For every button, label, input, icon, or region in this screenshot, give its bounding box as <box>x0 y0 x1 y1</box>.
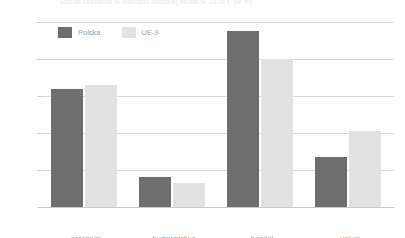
y-tick-mark-0 <box>37 207 42 208</box>
bar-polska-3 <box>315 157 347 207</box>
bar-ue-9-0 <box>85 85 117 207</box>
bar-chart-figure: Udział sektorów w wartości dodanej brutt… <box>0 0 405 238</box>
y-tick-mark-30 <box>37 96 42 97</box>
bar-polska-0 <box>51 89 83 207</box>
y-tick-mark-40 <box>37 59 42 60</box>
y-tick-mark-50 <box>37 22 42 23</box>
bar-group <box>227 22 293 207</box>
x-axis-label: przemysł <box>42 234 130 238</box>
bar-ue-9-3 <box>349 131 381 207</box>
bar-group <box>51 22 117 207</box>
y-tick-mark-10 <box>37 170 42 171</box>
bar-ue-9-1 <box>173 183 205 207</box>
y-tick-mark-20 <box>37 133 42 134</box>
bar-group <box>315 22 381 207</box>
chart-caption: Udział sektorów w wartości dodanej brutt… <box>60 0 360 7</box>
bar-polska-1 <box>139 177 171 207</box>
plot-area: 0%10%20%30%40%50%przemysłbudownictwohand… <box>42 22 394 207</box>
x-axis-label: budownictwo <box>130 234 218 238</box>
bar-ue-9-2 <box>261 59 293 207</box>
x-axis-label: handel <box>218 234 306 238</box>
bar-polska-2 <box>227 31 259 207</box>
x-axis-label: usługi <box>306 234 394 238</box>
bar-group <box>139 22 205 207</box>
gridline-0 <box>42 207 394 208</box>
